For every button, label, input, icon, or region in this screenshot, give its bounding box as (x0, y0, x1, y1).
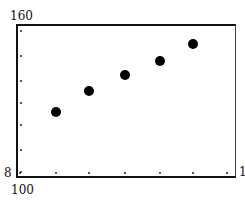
data-point (188, 39, 198, 49)
y-axis-bottom-label: 8 (4, 167, 12, 179)
y-tick-dot (20, 149, 22, 151)
y-tick-dot (20, 30, 22, 32)
data-point (155, 56, 165, 66)
x-tick-dot (55, 172, 57, 174)
x-tick-dot (124, 172, 126, 174)
x-tick-dot (159, 172, 161, 174)
y-tick-dot (20, 124, 22, 126)
x-axis-right-label: 1 (239, 166, 245, 178)
x-tick-dot (88, 172, 90, 174)
x-tick-dot (226, 172, 228, 174)
y-tick-dot (20, 55, 22, 57)
x-tick-dot (19, 172, 21, 174)
x-axis-left-label: 100 (11, 184, 34, 196)
y-tick-dot (20, 102, 22, 104)
y-tick-dot (20, 80, 22, 82)
x-tick-dot (192, 172, 194, 174)
plot-frame (16, 24, 236, 178)
data-point (84, 86, 94, 96)
data-point (51, 107, 61, 117)
y-axis-top-label: 160 (10, 10, 33, 22)
data-point (120, 70, 130, 80)
